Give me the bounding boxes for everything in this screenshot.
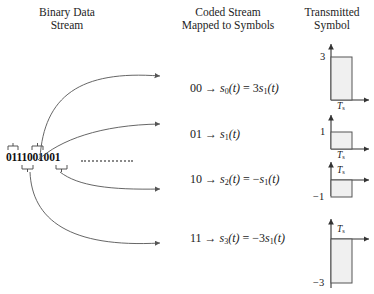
mapping-rhs-arg-11: (t): [274, 231, 285, 245]
waveform-amplitude-label-0: 3: [320, 51, 325, 62]
arrow-curve-10: [60, 172, 160, 189]
diagram-vector-layer: [0, 0, 374, 294]
arrow-curve-11: [30, 172, 160, 244]
figure-root: Binary Data Stream Coded Stream Mapped t…: [0, 0, 374, 294]
waveform-duration-label-1: Ts: [337, 150, 345, 160]
mapping-arrow-01: →: [205, 127, 217, 141]
waveform-amplitude-label-1: 1: [320, 126, 325, 137]
bit-group-brace-3: [22, 165, 33, 172]
mapping-bits-10: 10: [190, 172, 202, 186]
mapping-bits-11: 11: [190, 231, 202, 245]
waveform-duration-label-3: Ts: [337, 224, 345, 234]
waveform-bar-0: [331, 57, 352, 100]
mapping-rhs-arg-00: (t): [267, 81, 278, 95]
arrow-curve-01: [38, 124, 160, 160]
waveform-duration-label-0: Ts: [337, 101, 345, 111]
waveform-amplitude-label-2: −1: [313, 191, 324, 202]
mapping-equation-01: 01 → s1(t): [190, 127, 240, 142]
mapping-equation-00: 00 → s0(t) = 3s1(t): [190, 81, 279, 96]
mapping-arrow-00: →: [205, 81, 217, 95]
mapping-equals-11: = −3: [243, 231, 266, 245]
mapping-arrow-11: →: [205, 231, 217, 245]
mapping-arg-11: (t): [228, 231, 239, 245]
bit-group-brace-1: [8, 143, 18, 150]
waveform-bar-1: [331, 132, 352, 149]
mapping-arg-01: (t): [229, 127, 240, 141]
mapping-bits-01: 01: [190, 127, 202, 141]
mapping-arrow-10: →: [205, 172, 217, 186]
bit-group-brace-4: [56, 165, 67, 172]
mapping-equals-00: = 3: [243, 81, 259, 95]
mapping-equation-10: 10 → s2(t) = −s1(t): [190, 172, 280, 187]
mapping-equals-10: = −: [243, 172, 260, 186]
waveform-bar-2: [331, 180, 352, 197]
mapping-rhs-arg-10: (t): [268, 172, 279, 186]
mapping-arg-00: (t): [229, 81, 240, 95]
waveform-bar-3: [331, 239, 352, 283]
mapping-equation-11: 11 → s3(t) = −3s1(t): [190, 231, 285, 246]
mapping-arg-10: (t): [229, 172, 240, 186]
waveform-amplitude-label-3: −3: [313, 277, 324, 288]
waveform-duration-label-2: Ts: [337, 165, 345, 175]
mapping-bits-00: 00: [190, 81, 202, 95]
